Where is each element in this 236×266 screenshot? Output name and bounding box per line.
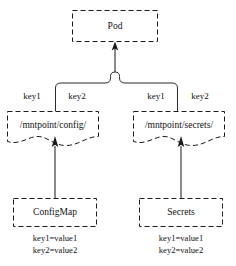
secrets-key1-label: key1 <box>147 91 165 101</box>
secrets-entry-2: key2=value2 <box>159 245 203 255</box>
edge-labels-config: key1 key2 <box>23 91 86 101</box>
edge-configmap-to-mount <box>52 136 59 198</box>
edge-secrets-to-mount <box>178 136 185 198</box>
configmap-entry-2: key2=value2 <box>33 245 77 255</box>
config-key2-label: key2 <box>68 91 86 101</box>
edge-mounts-to-pod <box>112 42 119 73</box>
secrets-entry-1: key1=value1 <box>159 233 203 243</box>
diagram-canvas: Pod key1 key2 key1 key2 /mntpoint/config… <box>0 0 236 266</box>
bracket-right <box>115 72 178 111</box>
node-configmap: ConfigMap <box>14 199 97 227</box>
secrets-key2-label: key2 <box>191 91 209 101</box>
pod-label: Pod <box>108 21 123 31</box>
configmap-entries: key1=value1 key2=value2 <box>33 233 77 255</box>
secrets-label: Secrets <box>167 207 195 217</box>
secrets-entries: key1=value1 key2=value2 <box>159 233 203 255</box>
diagram-root: Pod key1 key2 key1 key2 /mntpoint/config… <box>0 0 236 266</box>
node-pod: Pod <box>73 11 158 42</box>
node-secrets: Secrets <box>140 199 223 227</box>
secrets-mount-path-label: /mntpoint/secrets/ <box>145 120 213 130</box>
node-secrets-mount: /mntpoint/secrets/ <box>134 112 225 146</box>
config-key1-label: key1 <box>23 91 41 101</box>
config-mount-path-label: /mntpoint/config/ <box>20 120 87 130</box>
node-config-mount: /mntpoint/config/ <box>8 112 99 146</box>
configmap-label: ConfigMap <box>33 207 77 217</box>
configmap-entry-1: key1=value1 <box>33 233 77 243</box>
